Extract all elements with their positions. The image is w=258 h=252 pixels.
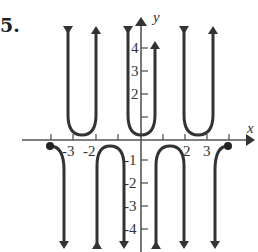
- curve-up-branch-1: [68, 30, 96, 135]
- y-tick-label: -4: [124, 221, 137, 237]
- curve-up-branch-3: [184, 30, 213, 135]
- curve-left-end-branch: [50, 146, 64, 245]
- endpoint-dot-left: [46, 142, 54, 150]
- x-tick-label: -2: [83, 143, 96, 159]
- y-tick-label: 3: [131, 63, 139, 79]
- y-tick-label: -1: [124, 152, 137, 168]
- figure: 5.: [0, 0, 258, 252]
- curve-right-end-branch: [215, 146, 228, 245]
- graph: y x -3 -2 2 3 4 3 2 -1 -2 -3 -4: [0, 0, 258, 252]
- y-tick-label: -3: [124, 198, 137, 214]
- y-tick-label: 2: [131, 86, 139, 102]
- x-tick-label: 3: [203, 143, 211, 159]
- y-tick-label: 4: [131, 40, 139, 56]
- curve-down-branch-2: [156, 146, 184, 245]
- y-ticks: [141, 48, 148, 229]
- endpoint-dot-right: [224, 142, 232, 150]
- curve-down-branch-1: [97, 146, 124, 245]
- x-axis-label: x: [246, 120, 254, 136]
- y-axis-label: y: [151, 9, 160, 25]
- y-tick-label: -2: [124, 175, 137, 191]
